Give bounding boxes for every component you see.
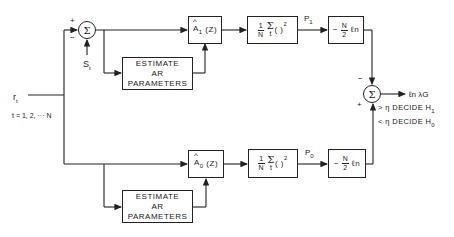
lower-filter-box: ^A0 (Z)	[188, 150, 224, 178]
minus-sign: −	[70, 33, 75, 42]
decide-h1-label: > η DECIDE H1	[378, 103, 435, 116]
output-summing-junction: Σ	[363, 85, 381, 103]
lower-estimate-ar-box: ESTIMATE AR PARAMETERS	[122, 190, 193, 223]
lower-power-box: 1N Σt ( )2	[248, 149, 298, 178]
decide-h0-label: < η DECIDE H0	[378, 117, 435, 130]
reference-signal-label: St	[83, 60, 91, 73]
plus-sign: +	[357, 100, 362, 109]
upper-estimate-ar-box: ESTIMATE AR PARAMETERS	[122, 57, 193, 90]
upper-power-output-label: P1	[304, 14, 313, 27]
index-range-label: t = 1, 2, ··· N	[12, 111, 51, 120]
upper-log-box: − N2 ℓn	[328, 16, 364, 44]
plus-sign: +	[70, 16, 75, 25]
lower-log-box: − N2 ℓn	[328, 149, 366, 178]
output-label: ℓn λG	[409, 90, 428, 99]
upper-power-box: 1N Σt ( )2	[247, 16, 298, 44]
input-signal-label: rt	[13, 93, 18, 106]
upper-filter-box: ^A1 (Z)	[188, 16, 222, 44]
lower-power-output-label: P0	[305, 148, 314, 161]
input-summing-junction: Σ	[78, 21, 96, 39]
minus-sign: −	[358, 74, 363, 83]
